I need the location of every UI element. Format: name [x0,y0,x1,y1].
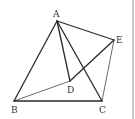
label-D: D [67,85,74,95]
label-A: A [52,9,60,19]
label-E: E [116,35,123,45]
segment-AB [14,21,57,101]
segment-AD [57,21,70,81]
label-C: C [99,105,106,115]
label-B: B [11,105,18,115]
segment-AC [57,21,102,101]
geometry-diagram: A B C D E [0,0,135,119]
segments [14,21,114,101]
